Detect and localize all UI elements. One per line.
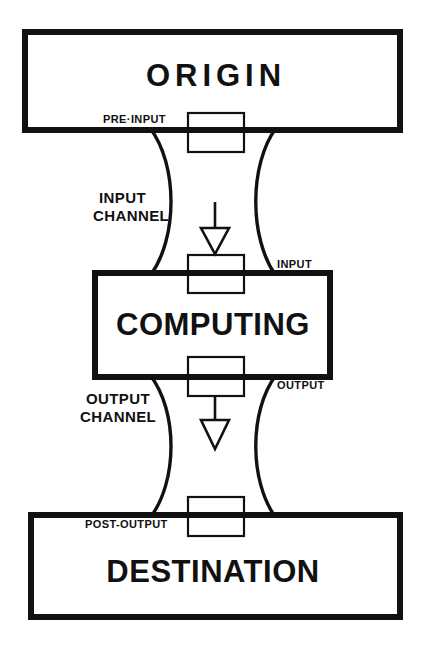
origin-label: ORIGIN <box>146 58 286 93</box>
output-arrow-head <box>201 420 229 449</box>
post-output-label: POST-OUTPUT <box>85 518 168 530</box>
computing-label: COMPUTING <box>116 307 310 342</box>
output-channel-label-line2: CHANNEL <box>80 408 156 425</box>
input-flow-arrow <box>201 202 229 254</box>
input-channel-right-curve <box>256 128 276 276</box>
diagram-canvas: ORIGIN COMPUTING DESTINATION PRE·INPUT I… <box>0 0 426 653</box>
output-channel-label-line1: OUTPUT <box>86 390 150 407</box>
input-label: INPUT <box>277 258 312 270</box>
destination-label: DESTINATION <box>106 554 319 589</box>
input-channel-label-line1: INPUT <box>99 189 146 206</box>
input-channel-shape <box>150 128 276 276</box>
output-channel-right-curve <box>256 375 276 518</box>
pre-input-label: PRE·INPUT <box>103 113 166 125</box>
output-flow-arrow <box>201 396 229 449</box>
output-channel-left-curve <box>150 375 171 518</box>
diagram-svg: ORIGIN COMPUTING DESTINATION PRE·INPUT I… <box>0 0 426 653</box>
input-channel-label-line2: CHANNEL <box>93 207 169 224</box>
output-label: OUTPUT <box>277 379 325 391</box>
input-channel-left-curve <box>150 128 171 276</box>
input-arrow-head <box>201 228 229 254</box>
